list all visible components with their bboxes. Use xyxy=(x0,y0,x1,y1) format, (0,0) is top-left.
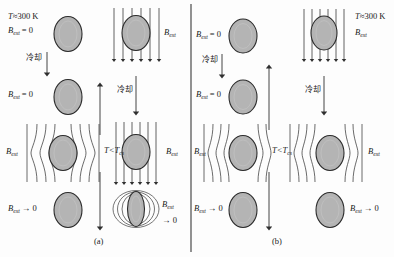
label-b-ext: Bext xyxy=(166,147,178,156)
label-cooling: 冷却 xyxy=(117,86,133,94)
sample-ellipse xyxy=(229,19,257,53)
sample-ellipse xyxy=(229,80,257,114)
label-b-ext-zero: Bext = 0 xyxy=(196,30,221,39)
panel-caption-a: (a) xyxy=(94,236,103,246)
label-cooling: 冷却 xyxy=(26,54,42,62)
label-to-zero: → 0 xyxy=(162,216,177,225)
sample-ellipse xyxy=(122,16,150,51)
sample-ellipse xyxy=(49,136,77,171)
figure-superconductor-meissner-diagram: T≈300 K Bext = 0 Bext = 0 Bext → 0 Bext … xyxy=(0,0,394,257)
label-b-ext-to-zero: Bext → 0 xyxy=(194,204,223,213)
panel-caption-b: (b) xyxy=(272,236,282,246)
sample-ellipse xyxy=(122,135,150,170)
label-b-ext-to-zero: Bext → 0 xyxy=(8,204,37,213)
label-t-below-tc: T<Tcs xyxy=(272,146,292,155)
label-b-ext: Bext xyxy=(194,147,206,156)
label-b-ext-zero: Bext = 0 xyxy=(8,90,33,99)
label-b-ext: Bext xyxy=(368,147,380,156)
label-b-ext-to-zero: Bext → 0 xyxy=(350,204,379,213)
label-temperature-room: T≈300 K xyxy=(355,12,385,21)
sample-ellipse xyxy=(128,192,145,227)
label-b-ext: Bext xyxy=(355,28,367,37)
label-b-ext: Bext xyxy=(164,28,176,37)
label-t-below-tc: T<Tcs xyxy=(104,146,124,155)
sample-ellipse xyxy=(311,16,337,50)
sample-ellipse xyxy=(229,193,257,228)
label-cooling: 冷却 xyxy=(305,86,321,94)
sample-ellipse xyxy=(54,17,82,52)
label-b-ext: Bext xyxy=(162,200,174,209)
label-b-ext-zero: Bext = 0 xyxy=(8,26,33,35)
sample-ellipse xyxy=(316,136,344,171)
sample-ellipse xyxy=(54,193,82,228)
sample-ellipse xyxy=(229,136,257,171)
sample-ellipse xyxy=(316,193,344,228)
label-cooling: 冷却 xyxy=(202,56,218,64)
sample-ellipse xyxy=(54,80,82,115)
label-temperature-room: T≈300 K xyxy=(8,12,38,21)
label-b-ext: Bext xyxy=(6,147,18,156)
label-b-ext-zero: Bext = 0 xyxy=(196,90,221,99)
